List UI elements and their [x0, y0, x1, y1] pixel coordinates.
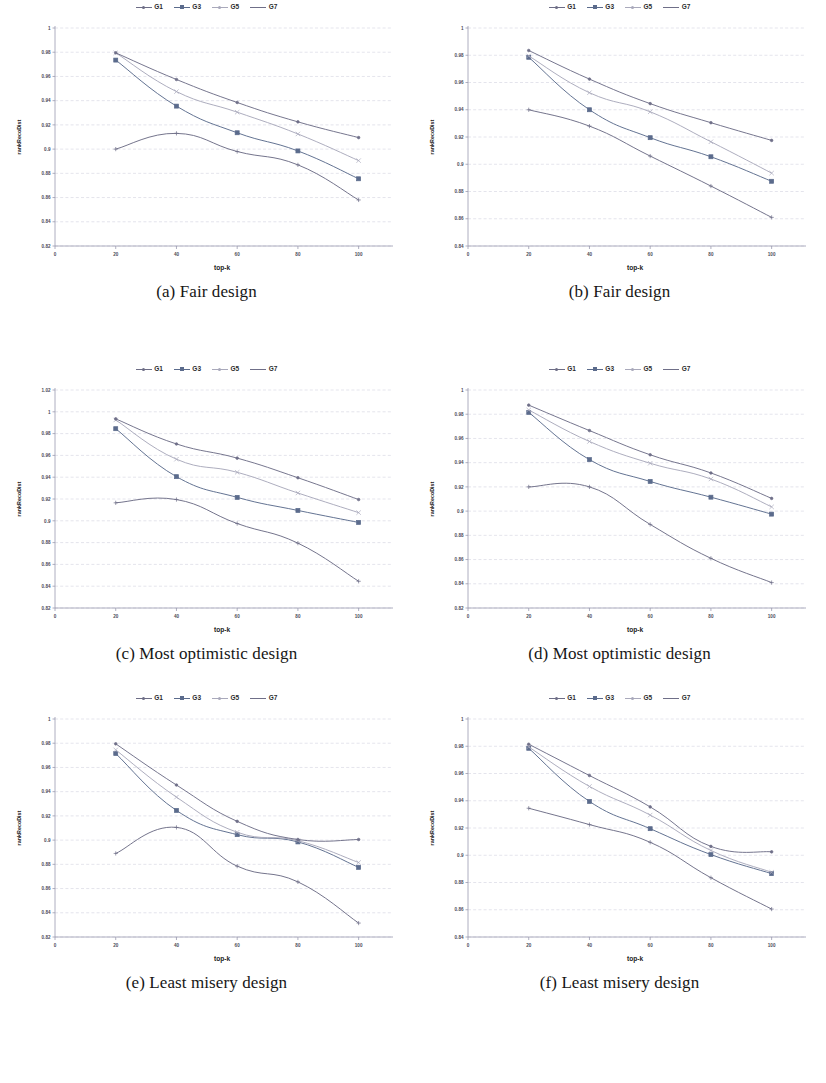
legend-item-G5[interactable]: G5 — [625, 695, 652, 702]
svg-text:0.98: 0.98 — [454, 412, 463, 417]
plot-wrap-d: G1G3G5G710.980.960.940.920.90.880.860.84… — [420, 362, 820, 644]
legend-label-G7: G7 — [269, 366, 278, 373]
legend-b: G1G3G5G7 — [420, 0, 820, 14]
legend-item-G3[interactable]: G3 — [587, 695, 614, 702]
svg-text:0.9: 0.9 — [457, 162, 464, 167]
legend-item-G1[interactable]: G1 — [136, 4, 163, 11]
legend-item-G1[interactable]: G1 — [136, 366, 163, 373]
x-ticks: 020406080100 — [466, 937, 775, 948]
series-G5 — [113, 748, 360, 865]
svg-text:0.98: 0.98 — [41, 741, 50, 746]
svg-text:0.9: 0.9 — [44, 838, 51, 843]
series-G7 — [114, 52, 360, 139]
panel-caption-a: (a) Fair design — [156, 282, 257, 302]
svg-text:0.96: 0.96 — [454, 80, 463, 85]
svg-text:0.82: 0.82 — [41, 606, 50, 611]
plot-canvas-c: 1.0210.980.960.940.920.90.880.860.840.82… — [7, 376, 403, 644]
svg-text:20: 20 — [113, 943, 119, 948]
plot-canvas-a: 10.980.960.940.920.90.880.860.840.820204… — [7, 14, 403, 282]
legend-item-G7[interactable]: G7 — [250, 695, 277, 702]
series-G7 — [527, 49, 773, 142]
plot-canvas-e: 10.980.960.940.920.90.880.860.840.820204… — [7, 705, 403, 973]
svg-text:0.94: 0.94 — [454, 107, 463, 112]
svg-text:0.96: 0.96 — [41, 74, 50, 79]
legend-item-G1[interactable]: G1 — [549, 4, 576, 11]
svg-text:0.88: 0.88 — [41, 862, 50, 867]
legend-item-G5[interactable]: G5 — [625, 4, 652, 11]
legend-d: G1G3G5G7 — [420, 362, 820, 376]
series-G3 — [113, 752, 360, 870]
svg-text:0: 0 — [466, 614, 469, 619]
legend-label-G7: G7 — [269, 695, 278, 702]
plot-wrap-b: G1G3G5G710.980.960.940.920.90.880.860.84… — [420, 0, 820, 282]
svg-text:20: 20 — [526, 614, 532, 619]
svg-text:60: 60 — [647, 943, 653, 948]
svg-text:0.96: 0.96 — [454, 771, 463, 776]
legend-item-G5[interactable]: G5 — [212, 695, 239, 702]
svg-text:80: 80 — [708, 614, 714, 619]
figure-panel-c: G1G3G5G71.0210.980.960.940.920.90.880.86… — [0, 362, 413, 691]
x-axis-title: top-k — [626, 955, 642, 963]
svg-text:0.92: 0.92 — [41, 497, 50, 502]
legend-label-G7: G7 — [682, 4, 691, 11]
legend-item-G7[interactable]: G7 — [250, 4, 277, 11]
svg-text:0.98: 0.98 — [41, 431, 50, 436]
figure-panel-a: G1G3G5G710.980.960.940.920.90.880.860.84… — [0, 0, 413, 362]
x-axis-title: top-k — [626, 626, 642, 634]
legend-item-G7[interactable]: G7 — [663, 695, 690, 702]
legend-item-G7[interactable]: G7 — [663, 366, 690, 373]
legend-item-G5[interactable]: G5 — [212, 366, 239, 373]
series-G5 — [526, 408, 773, 509]
x-ticks: 020406080100 — [466, 246, 775, 257]
legend-item-G3[interactable]: G3 — [587, 366, 614, 373]
legend-label-G1: G1 — [567, 695, 576, 702]
svg-text:0.9: 0.9 — [44, 519, 51, 524]
legend-item-G7[interactable]: G7 — [250, 366, 277, 373]
svg-text:0.94: 0.94 — [41, 475, 50, 480]
legend-item-G1[interactable]: G1 — [549, 366, 576, 373]
legend-item-G1[interactable]: G1 — [136, 695, 163, 702]
svg-text:0.96: 0.96 — [41, 453, 50, 458]
series-G1 — [526, 806, 773, 911]
legend-item-G3[interactable]: G3 — [174, 695, 201, 702]
svg-text:20: 20 — [113, 614, 119, 619]
plot-wrap-e: G1G3G5G710.980.960.940.920.90.880.860.84… — [7, 691, 407, 973]
y-gridlines: 10.980.960.940.920.90.880.860.84 — [454, 26, 805, 249]
legend-item-G3[interactable]: G3 — [174, 4, 201, 11]
svg-text:0.84: 0.84 — [454, 581, 463, 586]
svg-text:0.94: 0.94 — [41, 789, 50, 794]
svg-text:0.92: 0.92 — [41, 814, 50, 819]
svg-text:0.84: 0.84 — [41, 219, 50, 224]
legend-item-G5[interactable]: G5 — [625, 366, 652, 373]
legend-label-G5: G5 — [231, 695, 240, 702]
svg-text:0.96: 0.96 — [41, 765, 50, 770]
svg-text:0.92: 0.92 — [41, 123, 50, 128]
legend-item-G7[interactable]: G7 — [663, 4, 690, 11]
svg-text:0.92: 0.92 — [454, 826, 463, 831]
svg-text:20: 20 — [113, 252, 119, 257]
svg-text:0.84: 0.84 — [454, 935, 463, 940]
svg-text:100: 100 — [354, 943, 362, 948]
svg-text:0.86: 0.86 — [41, 886, 50, 891]
panel-caption-f: (f) Least misery design — [540, 973, 700, 993]
svg-text:0.96: 0.96 — [454, 436, 463, 441]
y-axis-title: rankRecoDist — [16, 119, 22, 154]
x-ticks: 020406080100 — [53, 937, 362, 948]
figure-sheet: G1G3G5G710.980.960.940.920.90.880.860.84… — [0, 0, 826, 1083]
svg-text:80: 80 — [708, 252, 714, 257]
svg-text:0.86: 0.86 — [41, 195, 50, 200]
svg-text:20: 20 — [526, 943, 532, 948]
series-G1 — [526, 108, 773, 220]
series-G1 — [113, 497, 360, 583]
legend-item-G5[interactable]: G5 — [212, 4, 239, 11]
y-gridlines: 10.980.960.940.920.90.880.860.840.82 — [41, 26, 392, 249]
legend-item-G3[interactable]: G3 — [174, 366, 201, 373]
x-ticks: 020406080100 — [53, 608, 362, 619]
series-G3 — [526, 746, 773, 875]
legend-label-G3: G3 — [192, 366, 201, 373]
legend-item-G3[interactable]: G3 — [587, 4, 614, 11]
svg-text:100: 100 — [354, 614, 362, 619]
y-axis-title: rankRecoDist — [16, 810, 22, 845]
legend-item-G1[interactable]: G1 — [549, 695, 576, 702]
svg-text:0.88: 0.88 — [41, 171, 50, 176]
